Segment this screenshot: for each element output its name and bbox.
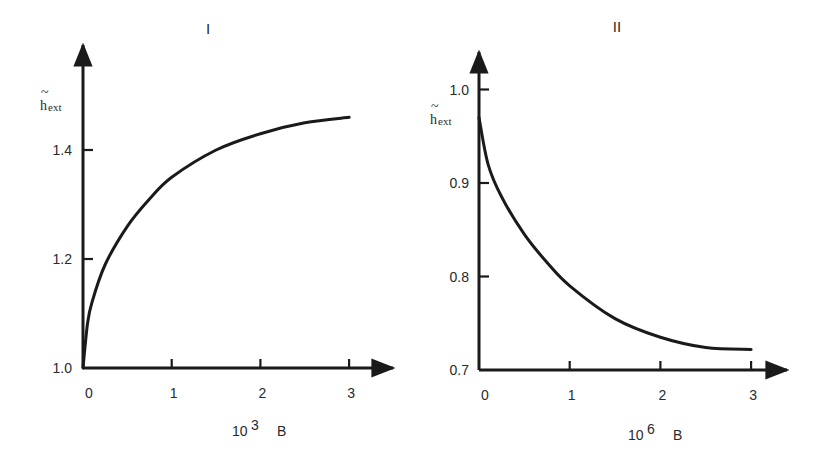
y-tick-label: 1.4: [53, 142, 73, 158]
x-tick-label: 2: [659, 387, 667, 403]
y-label-main: h: [430, 112, 437, 127]
x-tick-label: 1: [568, 387, 576, 403]
y-tick-label: 1.2: [53, 251, 73, 267]
panel-title: II: [613, 18, 621, 35]
panel-title: I: [206, 20, 210, 37]
x-tick-label: 2: [259, 385, 267, 401]
x-tick-label: 3: [749, 387, 757, 403]
y-axis-label: ~hext: [40, 85, 61, 113]
y-label-main: h: [40, 98, 47, 113]
y-tick-label: 0.7: [450, 362, 470, 378]
x-label-exponent: 6: [647, 421, 655, 437]
y-label-subscript: ext: [438, 115, 451, 127]
x-tick-label: 1: [170, 385, 178, 401]
x-label-base: 10: [628, 427, 644, 443]
x-axis-label: 106B: [628, 421, 682, 443]
chart-panel-i: I01231.01.21.4~hext103B: [40, 20, 393, 439]
x-label-variable: B: [673, 427, 682, 443]
data-curve: [83, 117, 349, 368]
figure: I01231.01.21.4~hext103B II01230.70.80.91…: [0, 0, 825, 463]
y-axis-label: ~hext: [430, 99, 451, 127]
x-label-base: 10: [232, 423, 248, 439]
x-tick-label: 0: [481, 387, 489, 403]
y-tick-label: 0.8: [450, 269, 470, 285]
x-axis-label: 103B: [232, 417, 286, 439]
x-label-variable: B: [277, 423, 286, 439]
y-tick-label: 1.0: [450, 82, 470, 98]
y-tick-label: 0.9: [450, 175, 470, 191]
x-tick-label: 0: [85, 385, 93, 401]
x-label-exponent: 3: [251, 417, 259, 433]
y-label-subscript: ext: [48, 101, 61, 113]
chart-panel-ii: II01230.70.80.91.0~hext106B: [430, 18, 787, 443]
y-tick-label: 1.0: [53, 360, 73, 376]
x-tick-label: 3: [347, 385, 355, 401]
data-curve: [479, 118, 751, 350]
